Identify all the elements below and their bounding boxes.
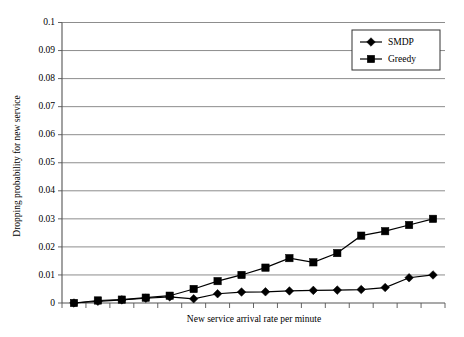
data-point-smdp (213, 289, 222, 298)
y-tick-label: 0.1 (43, 17, 55, 27)
x-axis-title: New service arrival rate per minute (187, 314, 321, 324)
legend-label-smdp: SMDP (388, 37, 414, 47)
data-point-greedy (262, 264, 269, 271)
y-tick-label: 0.04 (38, 185, 55, 195)
data-point-greedy (190, 285, 197, 292)
chart-figure: 00.010.020.030.040.050.060.070.080.090.1… (0, 0, 464, 337)
series-line-greedy (74, 219, 433, 303)
y-tick-labels-group: 00.010.020.030.040.050.060.070.080.090.1 (38, 17, 55, 308)
y-axis-title: Dropping probability for new service (12, 95, 22, 236)
data-point-greedy (310, 259, 317, 266)
legend-label-greedy: Greedy (388, 54, 416, 64)
data-point-greedy (334, 249, 341, 256)
y-tick-label: 0.05 (38, 157, 55, 167)
series-greedy (70, 215, 436, 307)
legend-marker-greedy (367, 55, 374, 62)
y-tick-label: 0 (50, 298, 55, 308)
y-tick-label: 0.09 (38, 45, 55, 55)
data-point-greedy (70, 299, 77, 306)
data-point-greedy (214, 277, 221, 284)
line-chart-svg: 00.010.020.030.040.050.060.070.080.090.1… (0, 0, 464, 337)
y-tick-label: 0.07 (38, 101, 55, 111)
data-point-greedy (358, 232, 365, 239)
y-tick-label: 0.01 (38, 270, 55, 280)
data-point-greedy (405, 221, 412, 228)
legend: SMDPGreedy (352, 30, 440, 70)
data-point-smdp (261, 287, 270, 296)
y-tick-label: 0.03 (38, 214, 55, 224)
y-tick-label: 0.02 (38, 242, 55, 252)
data-point-greedy (429, 215, 436, 222)
data-point-greedy (381, 227, 388, 234)
y-tick-label: 0.08 (38, 73, 55, 83)
data-point-smdp (309, 286, 318, 295)
data-point-smdp (357, 285, 366, 294)
data-point-greedy (166, 292, 173, 299)
data-point-smdp (333, 286, 342, 295)
data-series-group (70, 215, 438, 307)
data-point-greedy (286, 254, 293, 261)
data-point-greedy (142, 294, 149, 301)
data-point-smdp (237, 288, 246, 297)
data-point-greedy (118, 296, 125, 303)
data-point-smdp (189, 294, 198, 303)
x-tick-marks-group (62, 303, 445, 308)
data-point-greedy (238, 271, 245, 278)
data-point-smdp (429, 271, 438, 280)
data-point-greedy (94, 297, 101, 304)
y-tick-label: 0.06 (38, 129, 55, 139)
y-tick-marks-group (58, 23, 62, 304)
data-point-smdp (285, 287, 294, 296)
data-point-smdp (381, 283, 390, 292)
